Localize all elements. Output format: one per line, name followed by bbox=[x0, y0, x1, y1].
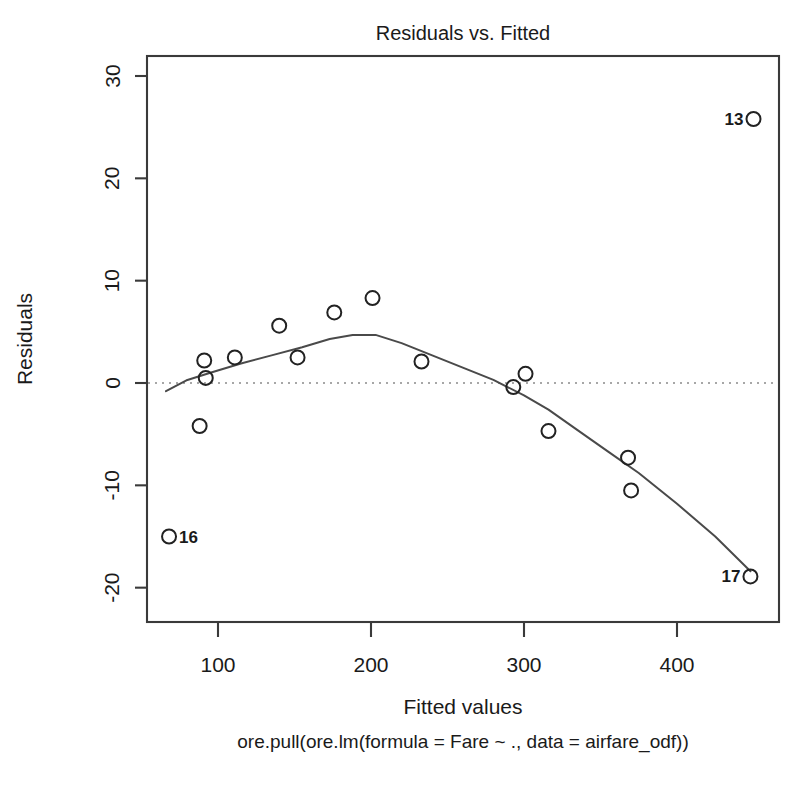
data-point bbox=[541, 424, 555, 438]
data-point bbox=[366, 291, 380, 305]
data-point bbox=[197, 353, 211, 367]
y-tick-label: 30 bbox=[101, 64, 124, 87]
x-axis-title: Fitted values bbox=[403, 695, 522, 718]
y-tick-label: 20 bbox=[101, 167, 124, 190]
data-point bbox=[621, 451, 635, 465]
chart-title: Residuals vs. Fitted bbox=[376, 22, 551, 44]
data-point bbox=[228, 350, 242, 364]
data-point bbox=[519, 367, 533, 381]
y-tick-label: 0 bbox=[101, 377, 124, 389]
x-tick-label: 100 bbox=[200, 653, 235, 676]
y-tick-label: -20 bbox=[101, 572, 124, 602]
data-point bbox=[747, 112, 761, 126]
point-label: 16 bbox=[179, 528, 198, 547]
x-tick-label: 400 bbox=[659, 653, 694, 676]
residuals-vs-fitted-plot: Residuals vs. Fitted Residuals Fitted va… bbox=[0, 0, 811, 795]
point-label: 13 bbox=[725, 110, 744, 129]
data-point bbox=[624, 483, 638, 497]
y-axis-title: Residuals bbox=[13, 293, 36, 385]
x-tick-label: 200 bbox=[353, 653, 388, 676]
data-point bbox=[327, 305, 341, 319]
chart-subtitle: ore.pull(ore.lm(formula = Fare ~ ., data… bbox=[237, 731, 688, 753]
data-points-group bbox=[162, 112, 760, 583]
y-tick-label: -10 bbox=[101, 470, 124, 500]
point-labels-group: 161317 bbox=[179, 110, 743, 586]
data-point bbox=[272, 319, 286, 333]
x-tick-label: 300 bbox=[506, 653, 541, 676]
x-axis-ticks: 100200300400 bbox=[200, 622, 694, 676]
data-point bbox=[291, 350, 305, 364]
plot-frame bbox=[147, 56, 779, 622]
point-label: 17 bbox=[722, 567, 741, 586]
data-point bbox=[162, 530, 176, 544]
y-axis-ticks: -20-100102030 bbox=[101, 64, 148, 603]
data-point bbox=[193, 419, 207, 433]
loess-smoother-line bbox=[166, 335, 750, 571]
data-point bbox=[414, 355, 428, 369]
y-tick-label: 10 bbox=[101, 269, 124, 292]
